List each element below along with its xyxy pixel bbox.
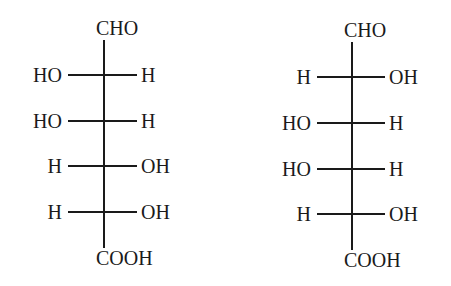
bond-line	[317, 122, 385, 124]
bond-line	[68, 120, 137, 122]
bottom-group: COOH	[344, 250, 401, 270]
left-substituent: HO	[33, 111, 62, 131]
top-group: CHO	[96, 18, 138, 38]
bond-line	[317, 213, 385, 215]
right-substituent: H	[389, 113, 403, 133]
right-substituent: H	[389, 159, 403, 179]
top-group: CHO	[344, 20, 386, 40]
left-substituent: H	[297, 204, 311, 224]
bond-line	[317, 76, 385, 78]
right-substituent: OH	[389, 67, 418, 87]
right-substituent: H	[141, 65, 155, 85]
fischer-projection-1: CHO HO H HO H H OH H OH COOH	[0, 0, 225, 286]
bond-line	[68, 165, 137, 167]
left-substituent: H	[48, 202, 62, 222]
right-substituent: OH	[141, 202, 170, 222]
backbone-line	[103, 40, 105, 248]
bond-line	[68, 211, 137, 213]
left-substituent: HO	[282, 113, 311, 133]
bottom-group: COOH	[96, 248, 153, 268]
left-substituent: HO	[282, 159, 311, 179]
bond-line	[68, 74, 137, 76]
left-substituent: H	[297, 67, 311, 87]
fischer-projection-2: CHO H OH HO H HO H H OH COOH	[230, 0, 451, 286]
left-substituent: HO	[33, 65, 62, 85]
left-substituent: H	[48, 156, 62, 176]
backbone-line	[351, 42, 353, 250]
right-substituent: OH	[141, 156, 170, 176]
right-substituent: H	[141, 111, 155, 131]
right-substituent: OH	[389, 204, 418, 224]
bond-line	[317, 168, 385, 170]
